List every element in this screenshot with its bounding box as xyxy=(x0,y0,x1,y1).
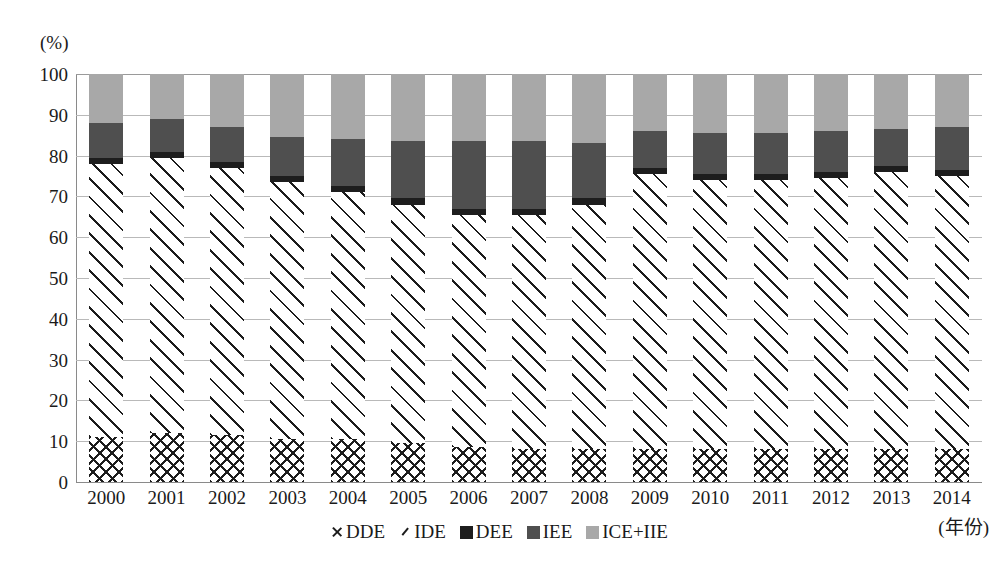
bar-segment-DDE-2003 xyxy=(270,439,304,482)
bar-segment-DEE-2007 xyxy=(512,209,546,215)
bar-segment-ICE-IIE-2007 xyxy=(512,74,546,141)
bar-segment-ICE-IIE-2002 xyxy=(210,74,244,127)
bar-segment-IEE-2005 xyxy=(391,141,425,198)
bar-segment-DEE-2000 xyxy=(89,158,123,164)
bar-2010 xyxy=(693,74,727,482)
y-axis-tick-label: 80 xyxy=(8,146,68,165)
bar-segment-DDE-2008 xyxy=(572,449,606,482)
bar-segment-DEE-2006 xyxy=(452,209,486,215)
bar-2012 xyxy=(814,74,848,482)
bar-segment-IEE-2014 xyxy=(935,127,969,170)
x-axis-tick-label: 2004 xyxy=(329,487,367,509)
bar-2007 xyxy=(512,74,546,482)
legend-label: IEE xyxy=(543,522,573,542)
bar-segment-ICE-IIE-2012 xyxy=(814,74,848,131)
x-axis-tick-label: 2006 xyxy=(450,487,488,509)
legend-item-ICE-IIE[interactable]: ICE+IIE xyxy=(586,522,668,542)
legend-item-IEE[interactable]: IEE xyxy=(527,522,573,542)
bar-segment-ICE-IIE-2011 xyxy=(754,74,788,133)
bar-segment-IEE-2010 xyxy=(693,133,727,174)
bar-segment-IEE-2013 xyxy=(874,129,908,166)
bar-segment-IDE-2013 xyxy=(874,172,908,449)
bar-segment-IEE-2006 xyxy=(452,141,486,208)
x-axis-tick-label: 2008 xyxy=(570,487,608,509)
bar-segment-IEE-2002 xyxy=(210,127,244,162)
bar-segment-DDE-2004 xyxy=(331,439,365,482)
x-axis-tick-label: 2001 xyxy=(148,487,186,509)
bar-segment-IDE-2007 xyxy=(512,215,546,450)
x-axis-tick-labels: 2000200120022003200420052006200720082009… xyxy=(76,487,982,515)
y-axis-tick-label: 60 xyxy=(8,228,68,247)
bar-segment-ICE-IIE-2004 xyxy=(331,74,365,139)
bar-segment-DEE-2009 xyxy=(633,168,667,174)
bar-segment-DDE-2014 xyxy=(935,449,969,482)
bar-segment-DEE-2012 xyxy=(814,172,848,178)
bar-2001 xyxy=(150,74,184,482)
bar-segment-DEE-2003 xyxy=(270,176,304,182)
bar-segment-DEE-2008 xyxy=(572,198,606,204)
bar-2002 xyxy=(210,74,244,482)
square-swatch-icon xyxy=(460,526,473,539)
x-axis-tick-label: 2013 xyxy=(872,487,910,509)
bar-segment-IEE-2001 xyxy=(150,119,184,152)
y-axis-tick-label: 50 xyxy=(8,269,68,288)
bar-segment-IDE-2000 xyxy=(89,164,123,437)
bar-segment-DDE-2000 xyxy=(89,437,123,482)
bar-segment-ICE-IIE-2006 xyxy=(452,74,486,141)
y-axis-tick-labels: 1009080706050403020100 xyxy=(0,74,68,482)
bar-segment-ICE-IIE-2003 xyxy=(270,74,304,137)
bar-segment-IDE-2006 xyxy=(452,215,486,448)
bar-segment-DEE-2011 xyxy=(754,174,788,180)
legend-item-DEE[interactable]: DEE xyxy=(460,522,513,542)
bar-segment-IDE-2011 xyxy=(754,180,788,449)
y-axis-tick-label: 40 xyxy=(8,309,68,328)
bar-segment-IDE-2014 xyxy=(935,176,969,449)
bar-segment-DDE-2010 xyxy=(693,449,727,482)
bar-segment-IDE-2001 xyxy=(150,158,184,433)
chart-legend: DDEIDEDEEIEEICE+IIE xyxy=(0,522,999,542)
bar-segment-IDE-2012 xyxy=(814,178,848,449)
bar-segment-IEE-2008 xyxy=(572,143,606,198)
x-axis-tick-label: 2005 xyxy=(389,487,427,509)
bar-segment-IDE-2002 xyxy=(210,168,244,435)
stacked-bar-chart: (%) 1009080706050403020100 2000200120022… xyxy=(0,0,999,586)
gridline xyxy=(76,482,982,483)
bar-segment-DDE-2007 xyxy=(512,449,546,482)
bar-segment-IEE-2000 xyxy=(89,123,123,158)
x-axis-tick-label: 2011 xyxy=(752,487,789,509)
bar-2011 xyxy=(754,74,788,482)
x-axis-tick-label: 2012 xyxy=(812,487,850,509)
legend-label: IDE xyxy=(414,522,446,542)
y-axis-tick-label: 90 xyxy=(8,105,68,124)
bar-segment-DEE-2013 xyxy=(874,166,908,172)
bar-2008 xyxy=(572,74,606,482)
bar-segment-DDE-2013 xyxy=(874,449,908,482)
bar-segment-IEE-2012 xyxy=(814,131,848,172)
bar-2004 xyxy=(331,74,365,482)
bar-2009 xyxy=(633,74,667,482)
bar-segment-DEE-2001 xyxy=(150,152,184,158)
bar-segment-DDE-2001 xyxy=(150,433,184,482)
bar-2003 xyxy=(270,74,304,482)
legend-item-DDE[interactable]: DDE xyxy=(331,522,385,542)
bar-segment-IEE-2011 xyxy=(754,133,788,174)
y-axis-tick-label: 0 xyxy=(8,473,68,492)
plot-area xyxy=(76,74,982,482)
square-swatch-icon xyxy=(586,526,599,539)
bar-segment-ICE-IIE-2010 xyxy=(693,74,727,133)
bar-segment-ICE-IIE-2000 xyxy=(89,74,123,123)
x-axis-tick-label: 2010 xyxy=(691,487,729,509)
bar-segment-DDE-2012 xyxy=(814,449,848,482)
bar-segment-IDE-2010 xyxy=(693,180,727,449)
legend-item-IDE[interactable]: IDE xyxy=(399,522,446,542)
bar-segment-DDE-2011 xyxy=(754,449,788,482)
bar-segment-ICE-IIE-2009 xyxy=(633,74,667,131)
bar-segment-ICE-IIE-2008 xyxy=(572,74,606,143)
bar-segment-DEE-2002 xyxy=(210,162,244,168)
y-axis-unit-label: (%) xyxy=(40,32,68,54)
bar-segment-IEE-2003 xyxy=(270,137,304,176)
bar-segment-DEE-2005 xyxy=(391,198,425,204)
bar-segment-IEE-2009 xyxy=(633,131,667,168)
square-swatch-icon xyxy=(527,526,540,539)
bar-segment-ICE-IIE-2001 xyxy=(150,74,184,119)
